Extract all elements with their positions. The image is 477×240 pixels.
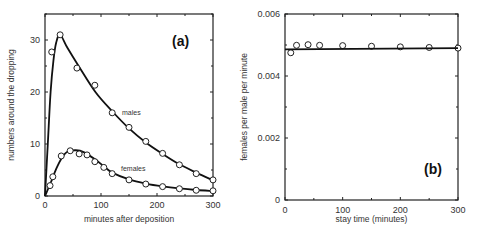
data-point [109, 110, 115, 116]
data-point [58, 153, 64, 159]
data-point [126, 177, 132, 183]
data-point [109, 171, 115, 177]
data-point [176, 162, 182, 168]
data-point [210, 188, 216, 194]
x-axis-title: stay time (minutes) [336, 214, 408, 224]
panel-a-chart: 01002003000102030minutes after depositio… [6, 14, 221, 224]
data-point [126, 124, 132, 130]
x-tick-label: 0 [282, 205, 287, 215]
data-point [160, 150, 166, 156]
data-point [143, 138, 149, 144]
data-point [193, 171, 199, 177]
panel-b-chart: 010020030000.0020.0040.006stay time (min… [239, 9, 466, 224]
data-point [101, 164, 107, 170]
y-tick-label: 0 [275, 195, 280, 205]
data-point [340, 43, 346, 49]
y-tick-label: 0.006 [257, 9, 280, 19]
data-point [57, 32, 63, 38]
data-point [50, 174, 56, 180]
data-point [47, 183, 53, 189]
data-point [92, 82, 98, 88]
y-tick-label: 0 [35, 191, 40, 201]
data-point [294, 42, 300, 48]
y-axis-title: females per male per minute [239, 53, 249, 161]
data-point [210, 177, 216, 183]
y-axis-title: numbers around the dropping [6, 49, 16, 161]
series-label-females: females [121, 165, 146, 172]
data-point [76, 151, 82, 157]
data-point [426, 44, 432, 50]
x-tick-label: 300 [205, 200, 220, 210]
y-tick-label: 20 [30, 87, 40, 97]
x-axis-title: minutes after deposition [84, 214, 175, 224]
figure: 01002003000102030minutes after depositio… [0, 0, 477, 240]
data-point [92, 159, 98, 165]
y-tick-label: 30 [30, 35, 40, 45]
data-point [74, 65, 80, 71]
x-tick-label: 0 [42, 200, 47, 210]
data-point [305, 42, 311, 48]
series-label-males: males [122, 109, 141, 116]
data-point [49, 49, 55, 55]
data-point [143, 181, 149, 187]
fit-curve [45, 150, 213, 196]
panel-label: (b) [424, 161, 442, 177]
y-tick-label: 0.002 [257, 133, 280, 143]
y-tick-label: 10 [30, 139, 40, 149]
x-tick-label: 200 [149, 200, 164, 210]
x-tick-label: 100 [93, 200, 108, 210]
data-point [317, 42, 323, 48]
x-tick-label: 300 [450, 205, 465, 215]
data-point [67, 148, 73, 154]
data-point [288, 50, 294, 56]
data-point [84, 152, 90, 158]
y-tick-label: 0.004 [257, 71, 280, 81]
data-point [193, 187, 199, 193]
data-point [160, 184, 166, 190]
data-point [176, 186, 182, 192]
panel-label: (a) [172, 33, 189, 49]
